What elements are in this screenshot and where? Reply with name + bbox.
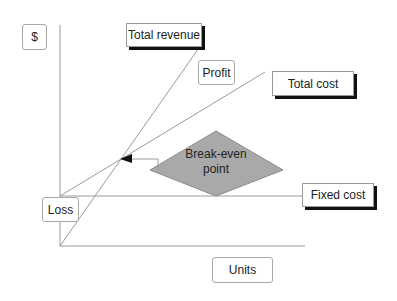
total-revenue-text: Total revenue bbox=[128, 28, 200, 42]
total-revenue-label: Total revenue bbox=[126, 23, 202, 47]
loss-text: Loss bbox=[48, 203, 73, 217]
total-cost-label: Total cost bbox=[272, 71, 354, 96]
arrowhead-icon bbox=[120, 154, 132, 163]
total-revenue-line bbox=[60, 45, 201, 246]
x-axis-label: Units bbox=[212, 257, 273, 283]
break-even-line1: Break-even bbox=[170, 147, 262, 162]
y-axis-label-text: $ bbox=[31, 30, 38, 44]
fixed-cost-label: Fixed cost bbox=[302, 183, 374, 207]
total-cost-text: Total cost bbox=[288, 77, 339, 91]
break-even-line2: point bbox=[170, 162, 262, 177]
profit-label: Profit bbox=[198, 60, 235, 85]
y-axis-label: $ bbox=[22, 24, 47, 50]
fixed-cost-text: Fixed cost bbox=[311, 188, 366, 202]
loss-label: Loss bbox=[42, 197, 79, 222]
profit-text: Profit bbox=[202, 66, 230, 80]
break-even-label: Break-even point bbox=[170, 147, 262, 177]
x-axis-label-text: Units bbox=[229, 263, 256, 277]
